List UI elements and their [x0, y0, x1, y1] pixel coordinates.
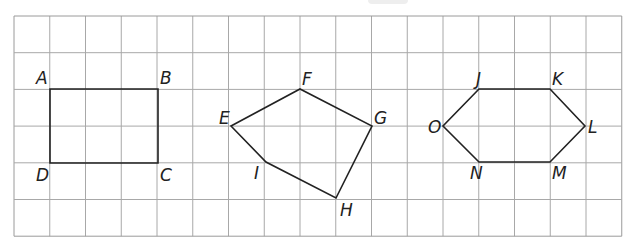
shapes — [50, 89, 585, 198]
vertex-label-a: A — [35, 68, 48, 88]
vertex-label-g: G — [374, 108, 387, 128]
vertex-label-d: D — [36, 165, 49, 185]
vertex-label-l: L — [588, 117, 597, 137]
vertex-labels: ABCDEFGHIJKLMNO — [35, 68, 597, 220]
vertex-label-h: H — [340, 200, 353, 220]
vertex-label-e: E — [219, 108, 230, 128]
vertex-label-i: I — [254, 163, 259, 183]
vertex-label-j: J — [473, 69, 481, 89]
pentagon-EFGHI — [231, 89, 372, 198]
vertex-label-o: O — [428, 117, 441, 137]
vertex-label-k: K — [552, 69, 565, 89]
grid-diagram: ABCDEFGHIJKLMNO — [0, 0, 634, 244]
grid — [14, 16, 622, 236]
vertex-label-m: M — [552, 163, 567, 183]
vertex-label-c: C — [160, 165, 172, 185]
vertex-label-b: B — [160, 68, 172, 88]
vertex-label-f: F — [302, 69, 312, 89]
vertex-label-n: N — [470, 163, 483, 183]
